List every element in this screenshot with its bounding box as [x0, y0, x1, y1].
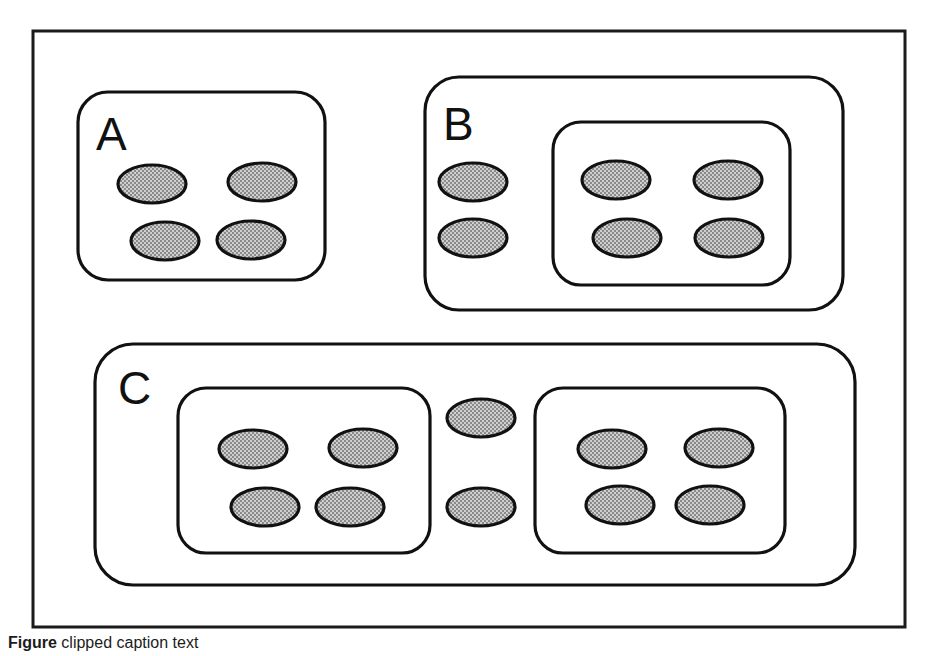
panel-c: C	[95, 344, 855, 585]
panel-b-ellipse-1	[439, 163, 507, 201]
figure-container: ABC Figure clipped caption text	[0, 0, 937, 656]
panel-c-ellipse-1	[219, 430, 287, 468]
panel-b-ellipse-5	[593, 219, 661, 257]
panel-b-ellipse-4	[694, 161, 762, 199]
panel-c-ellipse-10	[676, 486, 744, 524]
panel-c-ellipse-5	[447, 399, 515, 437]
panel-a-label: A	[96, 108, 127, 160]
panel-c-ellipse-4	[316, 488, 384, 526]
panel-b-ellipse-2	[439, 219, 507, 257]
panel-a: A	[78, 92, 325, 280]
panel-b: B	[425, 77, 843, 310]
panel-c-ellipse-9	[586, 486, 654, 524]
panel-c-inner-left	[178, 388, 430, 553]
panel-b-ellipse-3	[582, 161, 650, 199]
panel-c-label: C	[118, 362, 151, 414]
panels-layer: ABC	[78, 77, 855, 585]
panel-c-ellipse-2	[329, 429, 397, 467]
panel-c-ellipse-8	[685, 429, 753, 467]
caption-label: Figure	[8, 634, 57, 651]
diagram-canvas: ABC	[0, 0, 937, 656]
panel-c-inner-right	[535, 388, 785, 553]
panel-a-ellipse-2	[228, 163, 296, 201]
caption-line: Figure clipped caption text	[8, 634, 198, 652]
caption-rest: clipped caption text	[61, 634, 198, 651]
panel-b-inner	[553, 122, 790, 285]
panel-c-ellipse-6	[447, 488, 515, 526]
panel-b-ellipse-6	[695, 219, 763, 257]
panel-a-ellipse-4	[217, 221, 285, 259]
panel-c-ellipse-3	[231, 488, 299, 526]
panel-b-label: B	[443, 98, 474, 150]
panel-c-ellipse-7	[578, 430, 646, 468]
figure-caption: Figure clipped caption text	[0, 632, 937, 656]
panel-a-ellipse-1	[118, 165, 186, 203]
panel-a-ellipse-3	[131, 222, 199, 260]
